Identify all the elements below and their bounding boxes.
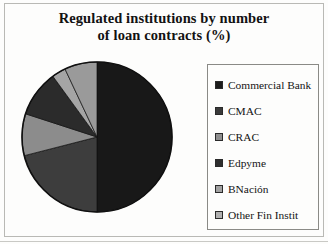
pie-chart-area	[0, 0, 195, 244]
legend-swatch-crac	[215, 133, 223, 141]
legend-label-cmac: CMAC	[228, 105, 262, 117]
legend-swatch-commercial-bank	[215, 81, 223, 89]
legend-item-other-fin-instit[interactable]: Other Fin Instit	[208, 202, 318, 228]
pie-chart-svg	[0, 0, 195, 244]
chart-figure: Regulated institutions by number of loan…	[0, 0, 328, 244]
legend-swatch-other-fin-instit	[215, 211, 223, 219]
legend-item-edpyme[interactable]: Edpyme	[208, 150, 318, 176]
legend-swatch-bnacion	[215, 185, 223, 193]
legend-label-crac: CRAC	[228, 131, 259, 143]
legend-item-bnacion[interactable]: BNación	[208, 176, 318, 202]
legend-swatch-edpyme	[215, 159, 223, 167]
legend-swatch-cmac	[215, 107, 223, 115]
legend-label-other-fin-instit: Other Fin Instit	[228, 209, 298, 221]
legend-label-commercial-bank: Commercial Bank	[228, 79, 311, 91]
legend-item-crac[interactable]: CRAC	[208, 124, 318, 150]
legend-label-edpyme: Edpyme	[228, 157, 266, 169]
legend-label-bnacion: BNación	[228, 183, 269, 195]
legend-item-cmac[interactable]: CMAC	[208, 98, 318, 124]
legend-item-commercial-bank[interactable]: Commercial Bank	[208, 72, 318, 98]
pie-slice-commercial-bank[interactable]	[97, 62, 172, 212]
chart-legend: Commercial Bank CMAC CRAC Edpyme BNación…	[207, 64, 319, 230]
